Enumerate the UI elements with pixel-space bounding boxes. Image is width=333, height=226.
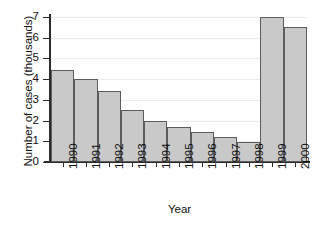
bar xyxy=(284,27,307,162)
x-axis-tick xyxy=(272,163,273,167)
x-axis-tick-label: 1993 xyxy=(137,143,148,169)
y-axis-tick-label: 6 xyxy=(24,32,39,43)
y-axis-tick xyxy=(43,17,49,18)
x-axis-tick-label: 1999 xyxy=(277,143,288,169)
x-axis-tick-label: 1996 xyxy=(207,143,218,169)
x-axis-tick xyxy=(156,163,157,167)
x-axis-tick xyxy=(109,163,110,167)
x-axis-tick-label: 1995 xyxy=(184,143,195,169)
y-axis-tick xyxy=(43,121,49,122)
y-axis-tick-label: 7 xyxy=(24,11,39,22)
x-axis-tick xyxy=(295,163,296,167)
y-axis-tick xyxy=(43,38,49,39)
x-axis-tick xyxy=(249,163,250,167)
x-axis-tick-label: 2000 xyxy=(300,143,311,169)
x-axis-tick-label: 1991 xyxy=(91,143,102,169)
y-axis-tick xyxy=(43,79,49,80)
y-axis-tick xyxy=(43,141,49,142)
x-axis-tick xyxy=(226,163,227,167)
y-axis-tick-label: 2 xyxy=(24,115,39,126)
x-axis-tick xyxy=(132,163,133,167)
x-axis-tick-label: 1997 xyxy=(231,143,242,169)
bar xyxy=(260,17,283,162)
y-axis-tick xyxy=(43,100,49,101)
x-axis-tick xyxy=(63,163,64,167)
y-axis-tick-label: 0 xyxy=(24,156,39,167)
x-axis-tick-label: 1992 xyxy=(114,143,125,169)
y-axis-tick xyxy=(43,162,49,163)
y-axis-tick-label: 3 xyxy=(24,94,39,105)
x-axis-tick-label: 1990 xyxy=(68,143,79,169)
x-axis-title: Year xyxy=(51,203,308,215)
x-axis-tick-label: 1994 xyxy=(161,143,172,169)
x-axis-tick xyxy=(202,163,203,167)
x-axis-tick xyxy=(179,163,180,167)
y-axis-tick-label: 5 xyxy=(24,52,39,63)
y-axis-tick-label: 1 xyxy=(24,135,39,146)
y-axis-tick xyxy=(43,58,49,59)
x-axis-tick xyxy=(86,163,87,167)
bar-chart: Number of cases (thousands) 01234567 199… xyxy=(0,0,333,226)
plot-area xyxy=(51,17,307,162)
x-axis-tick-label: 1998 xyxy=(254,143,265,169)
y-axis-tick-label: 4 xyxy=(24,73,39,84)
